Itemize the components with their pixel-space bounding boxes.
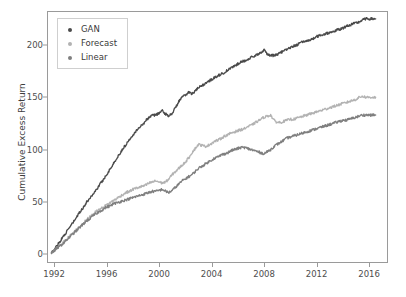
legend-label: Forecast [81, 38, 117, 49]
x-tick-mark [107, 263, 108, 267]
legend-item-linear[interactable]: Linear [64, 52, 117, 63]
x-tick-label: 2012 [306, 269, 328, 279]
x-tick-label: 2000 [148, 269, 170, 279]
x-tick-label: 1992 [43, 269, 65, 279]
legend[interactable]: GANForecastLinear [57, 18, 128, 69]
legend-marker-dot-icon [68, 42, 72, 46]
x-tick-mark [264, 263, 265, 267]
legend-item-forecast[interactable]: Forecast [64, 38, 117, 49]
legend-marker-dot-icon [68, 28, 72, 32]
legend-item-gan[interactable]: GAN [64, 24, 117, 35]
legend-label: Linear [81, 52, 107, 63]
legend-label: GAN [81, 24, 100, 35]
x-tick-mark [317, 263, 318, 267]
legend-marker-dot-icon [68, 56, 72, 60]
x-tick-label: 2008 [253, 269, 275, 279]
x-tick-mark [54, 263, 55, 267]
x-tick-label: 2004 [201, 269, 223, 279]
x-tick-mark [369, 263, 370, 267]
x-tick-mark [212, 263, 213, 267]
figure: Cumulative Excess Return 050100150200 19… [0, 0, 406, 297]
x-tick-label: 2016 [358, 269, 380, 279]
x-tick-label: 1996 [96, 269, 118, 279]
x-tick-mark [159, 263, 160, 267]
